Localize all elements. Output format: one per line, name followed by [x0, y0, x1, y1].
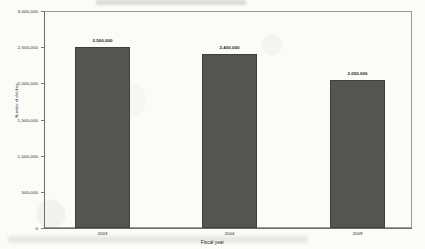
y-tick-label-1500000: 1,500,000 [18, 117, 38, 122]
x-category-label-2003: 2003 [63, 231, 142, 236]
bar-value-label-2004: 2,400,000 [190, 45, 269, 50]
y-tick-label-1000000: 1,000,000 [18, 153, 38, 158]
y-axis-line [44, 11, 45, 229]
y-tick-label-500000: 500,000 [21, 189, 38, 194]
bar-2009 [330, 80, 385, 228]
x-category-label-2004: 2004 [190, 231, 269, 236]
bar-value-label-2009: 2,050,000 [318, 71, 397, 76]
y-tick-label-3000000: 3,000,000 [18, 9, 38, 14]
y-tick-label-2500000: 2,500,000 [18, 45, 38, 50]
bar-2003 [75, 47, 130, 228]
bar-2004 [202, 54, 257, 228]
chart-page: Number of children 3,000,000 2,500,000 2… [0, 0, 425, 249]
x-axis-title: Fiscal year [0, 240, 425, 246]
x-category-label-2009: 2009 [318, 231, 397, 236]
scan-artifact-top [96, 0, 246, 5]
bar-value-label-2003: 2,500,000 [63, 38, 142, 43]
y-tick-label-2000000: 2,000,000 [18, 81, 38, 86]
y-tick-label-0: 0 [35, 226, 38, 231]
x-axis-line [44, 228, 412, 229]
